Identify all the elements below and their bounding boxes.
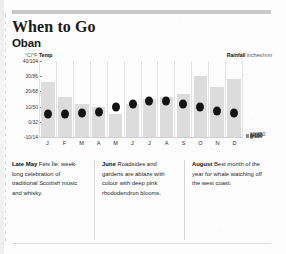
page-gutter xyxy=(0,0,4,254)
page-subtitle: Oban xyxy=(12,37,41,49)
month-label: S xyxy=(175,140,192,146)
page-gutter-dashes xyxy=(5,14,6,244)
footer-rule xyxy=(12,243,271,244)
temperature-dot xyxy=(112,103,120,112)
highlight-item: June Roadsides and gardens are ablaze wi… xyxy=(94,160,184,240)
month-label: M xyxy=(73,140,90,146)
month-column xyxy=(142,61,159,137)
month-axis-labels: JFMAMJJASOND xyxy=(39,140,243,146)
climate-chart: °C/°F Temp Rainfall inches/mm 40/10430/8… xyxy=(12,52,274,157)
left-axis-tick: 20/68 xyxy=(25,88,38,94)
month-column xyxy=(125,61,142,137)
month-label: M xyxy=(107,140,124,146)
month-column xyxy=(192,61,209,137)
month-label: A xyxy=(158,140,175,146)
left-axis-label: Temp xyxy=(39,52,52,58)
left-axis-tick: -10/14 xyxy=(24,134,38,140)
left-axis-tick: 30/86 xyxy=(25,73,38,79)
highlight-month: August xyxy=(192,161,212,167)
month-column xyxy=(175,61,192,137)
temperature-dot xyxy=(162,97,170,106)
left-axis-tick: 10/50 xyxy=(25,104,38,110)
month-column xyxy=(226,61,243,137)
month-column xyxy=(39,61,57,137)
month-column xyxy=(158,61,175,137)
temperature-dot xyxy=(213,107,221,116)
month-label: O xyxy=(192,140,209,146)
right-axis-unit: inches/mm xyxy=(247,52,272,58)
month-column xyxy=(108,61,125,137)
temperature-dot xyxy=(179,99,187,108)
temperature-dot xyxy=(145,97,153,106)
month-label: D xyxy=(226,140,243,146)
guidebook-page: When to Go Oban °C/°F Temp Rainfall inch… xyxy=(0,0,286,254)
highlight-month: June xyxy=(102,161,116,167)
temperature-dot xyxy=(61,110,69,119)
month-label: N xyxy=(209,140,226,146)
header-rule xyxy=(12,10,271,14)
highlight-item: August Best month of the year for whale … xyxy=(184,160,274,240)
month-label: F xyxy=(56,140,73,146)
temperature-dot xyxy=(196,103,204,112)
seasonal-highlights: Late May Fèis Ìle: week-long celebration… xyxy=(12,160,274,240)
month-column xyxy=(91,61,108,137)
rainfall-bar xyxy=(109,114,122,137)
left-axis-tick: 0/32 xyxy=(28,119,38,125)
highlight-item: Late May Fèis Ìle: week-long celebration… xyxy=(12,160,94,240)
month-column xyxy=(209,61,226,137)
month-label: J xyxy=(124,140,141,146)
axis-baseline xyxy=(39,137,243,138)
right-axis-tick: 0 xyxy=(250,134,253,140)
month-label: J xyxy=(39,140,56,146)
right-axis-title: Rainfall inches/mm xyxy=(227,52,272,58)
month-column xyxy=(57,61,74,137)
temperature-dot xyxy=(230,109,238,118)
temperature-dot xyxy=(129,100,137,109)
month-label: J xyxy=(141,140,158,146)
temperature-dot xyxy=(44,110,52,119)
right-axis-label: Rainfall xyxy=(227,52,246,58)
month-label: A xyxy=(90,140,107,146)
page-title: When to Go xyxy=(12,18,96,36)
highlight-month: Late May xyxy=(12,161,37,167)
temperature-dot xyxy=(95,107,103,116)
left-axis-tick: 40/104 xyxy=(23,58,38,64)
plot-area xyxy=(39,61,243,137)
month-columns xyxy=(39,61,243,137)
month-column xyxy=(74,61,91,137)
temperature-dot xyxy=(78,108,86,117)
